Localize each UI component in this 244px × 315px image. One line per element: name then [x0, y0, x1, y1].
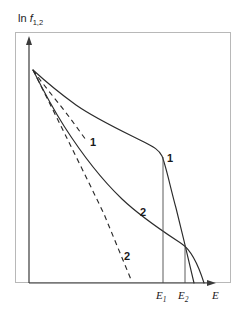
- figure-frame: [16, 33, 231, 283]
- y-axis-label-subscript: 1,2: [33, 18, 43, 27]
- y-axis-label-prefix: ln: [18, 12, 30, 24]
- x-axis-arrowhead: [207, 280, 216, 286]
- x-tick-label-e2: E2: [177, 289, 189, 304]
- curve-label-dashed-1: 1: [90, 136, 96, 148]
- x-tick-e2-subscript: 2: [185, 295, 189, 304]
- figure-container: ln f1,2 E1 E2 E 1 2 1 2: [0, 0, 244, 315]
- solid-curve-2: [33, 70, 204, 283]
- curve-label-dashed-2: 2: [124, 250, 130, 262]
- curve-label-solid-2: 2: [140, 206, 146, 218]
- dashed-curve-2: [33, 70, 132, 282]
- x-tick-label-e1: E1: [155, 289, 166, 304]
- y-axis-label: ln f1,2: [18, 12, 43, 27]
- curve-label-solid-1: 1: [167, 152, 173, 164]
- plot-canvas: ln f1,2 E1 E2 E 1 2 1 2: [0, 0, 244, 315]
- x-axis-label: E: [211, 289, 219, 301]
- y-axis-arrowhead: [26, 36, 32, 45]
- x-tick-e1-subscript: 1: [163, 295, 167, 304]
- dashed-curve-1: [33, 70, 86, 140]
